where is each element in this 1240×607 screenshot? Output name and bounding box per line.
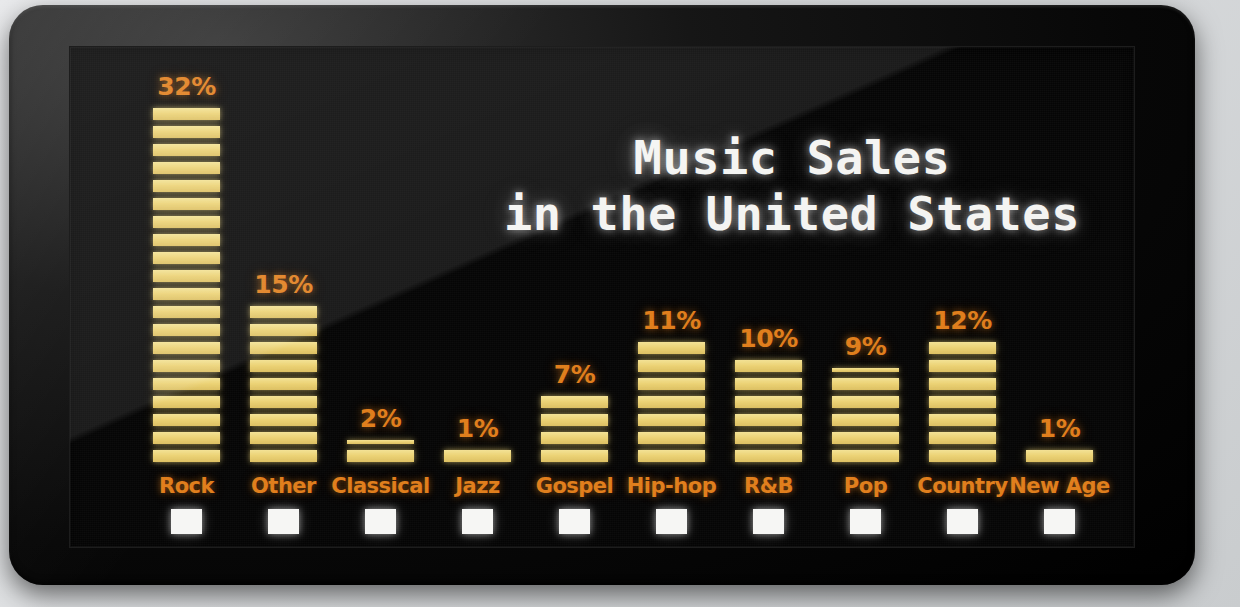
bar-segment xyxy=(153,396,220,408)
bar-segment xyxy=(250,432,317,444)
bar-segment xyxy=(153,450,220,462)
bar-segment xyxy=(153,198,220,210)
bar-segment xyxy=(638,342,705,354)
bar-segment xyxy=(153,252,220,264)
bar-segment-stack xyxy=(347,440,414,462)
bar-segment xyxy=(929,450,996,462)
bar-segment-partial xyxy=(347,440,414,444)
bar-segment xyxy=(735,432,802,444)
bar-segment-stack xyxy=(832,368,899,462)
bar-legend-swatch[interactable] xyxy=(656,509,687,534)
bar-segment xyxy=(929,414,996,426)
bar-value-label: 9% xyxy=(818,332,913,361)
bar-segment xyxy=(832,378,899,390)
bar-segment xyxy=(735,450,802,462)
bar-category-label: Classical xyxy=(330,474,431,498)
bar-segment-stack xyxy=(929,342,996,462)
bar-segment xyxy=(153,324,220,336)
bar-segment xyxy=(1026,450,1093,462)
bar-segment-stack xyxy=(541,396,608,462)
bar-segment xyxy=(347,450,414,462)
page-background: Music Sales in the United States 32%Rock… xyxy=(0,0,1240,607)
bar-segment xyxy=(638,396,705,408)
bar-segment-stack xyxy=(250,306,317,462)
bar-segment xyxy=(153,234,220,246)
bar-segment xyxy=(250,450,317,462)
bar-category-label: Rock xyxy=(136,474,237,498)
bar-segment-stack xyxy=(638,342,705,462)
bar-value-label: 11% xyxy=(624,306,719,335)
bar-value-label: 10% xyxy=(721,324,816,353)
bar-segment xyxy=(638,360,705,372)
bar-legend-swatch[interactable] xyxy=(171,509,202,534)
bar-category-label: Pop xyxy=(815,474,916,498)
bar-value-label: 2% xyxy=(333,404,428,433)
bar-segment-stack xyxy=(735,360,802,462)
bar-segment-stack xyxy=(1026,450,1093,462)
bar-category-label: Hip-hop xyxy=(621,474,722,498)
bar-segment xyxy=(153,180,220,192)
bar-segment xyxy=(250,396,317,408)
bar-segment xyxy=(153,144,220,156)
bar-segment xyxy=(735,414,802,426)
bar-segment xyxy=(250,414,317,426)
bar-category-label: Country xyxy=(912,474,1013,498)
bar-segment xyxy=(541,396,608,408)
bar-segment xyxy=(153,126,220,138)
bar-segment xyxy=(541,414,608,426)
bar-value-label: 7% xyxy=(527,360,622,389)
bar-value-label: 32% xyxy=(139,72,234,101)
bar-segment xyxy=(638,432,705,444)
bar-category-label: Other xyxy=(233,474,334,498)
bar-category-label: Jazz xyxy=(427,474,528,498)
bar-segment-stack xyxy=(153,108,220,462)
bar-segment xyxy=(153,342,220,354)
bar-segment xyxy=(250,378,317,390)
bar-segment xyxy=(153,378,220,390)
bar-legend-swatch[interactable] xyxy=(753,509,784,534)
bar-segment xyxy=(832,414,899,426)
bar-segment xyxy=(153,162,220,174)
bar-segment xyxy=(832,450,899,462)
bar-segment-partial xyxy=(832,368,899,372)
bar-segment xyxy=(250,324,317,336)
bar-legend-swatch[interactable] xyxy=(365,509,396,534)
bar-legend-swatch[interactable] xyxy=(462,509,493,534)
bar-segment xyxy=(929,378,996,390)
bar-segment xyxy=(735,360,802,372)
bar-value-label: 1% xyxy=(430,414,525,443)
bar-legend-swatch[interactable] xyxy=(947,509,978,534)
bar-legend-swatch[interactable] xyxy=(1044,509,1075,534)
bar-segment xyxy=(153,306,220,318)
bar-segment xyxy=(735,396,802,408)
bar-segment xyxy=(250,342,317,354)
bar-legend-swatch[interactable] xyxy=(559,509,590,534)
bar-segment xyxy=(735,378,802,390)
bar-segment xyxy=(929,396,996,408)
bar-segment xyxy=(541,450,608,462)
bar-category-label: New Age xyxy=(1009,474,1110,498)
bar-value-label: 15% xyxy=(236,270,331,299)
bar-segment xyxy=(541,432,608,444)
bar-segment xyxy=(250,360,317,372)
bar-segment xyxy=(638,414,705,426)
bar-segment xyxy=(153,432,220,444)
bar-chart-plot-area: 32%Rock15%Other2%Classical1%Jazz7%Gospel… xyxy=(70,47,1134,547)
bar-segment xyxy=(638,378,705,390)
bar-segment xyxy=(153,360,220,372)
bar-value-label: 12% xyxy=(915,306,1010,335)
bar-segment xyxy=(832,396,899,408)
bar-value-label: 1% xyxy=(1012,414,1107,443)
bar-segment xyxy=(638,450,705,462)
bar-legend-swatch[interactable] xyxy=(268,509,299,534)
bar-segment xyxy=(929,432,996,444)
bar-legend-swatch[interactable] xyxy=(850,509,881,534)
bar-segment xyxy=(444,450,511,462)
bar-category-label: R&B xyxy=(718,474,819,498)
display-screen: Music Sales in the United States 32%Rock… xyxy=(69,46,1135,548)
bar-segment xyxy=(832,432,899,444)
bar-segment xyxy=(929,342,996,354)
bar-segment-stack xyxy=(444,450,511,462)
bar-segment xyxy=(153,216,220,228)
bar-segment xyxy=(153,288,220,300)
